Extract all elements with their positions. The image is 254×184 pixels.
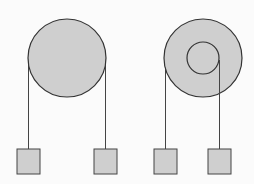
inner-wheel [187,42,219,74]
pulley-wheel [28,19,106,97]
mass-block [154,149,177,174]
mass-block [17,149,40,174]
mass-block [208,149,231,174]
mass-block [94,149,117,174]
pulley-diagram [0,0,254,184]
compound-pulley-system [154,19,242,174]
single-pulley-system [17,19,117,174]
